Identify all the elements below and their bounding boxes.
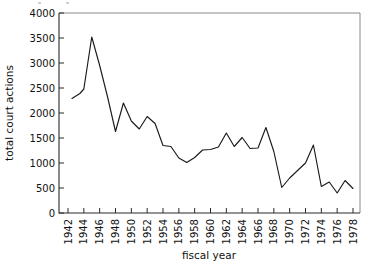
y-tick-label-0: 0: [49, 208, 55, 219]
chart-figure: 05001000150020002500300035004000 1942194…: [0, 0, 374, 264]
x-tick-label-1946: 1946: [94, 219, 105, 244]
x-tick-label-1964: 1964: [237, 219, 248, 244]
x-tick-label-1968: 1968: [268, 219, 279, 244]
x-tick-label-1966: 1966: [253, 219, 264, 244]
x-tick-label-1974: 1974: [316, 219, 327, 244]
x-axis-ticks: [68, 208, 353, 213]
x-axis-title: fiscal year: [182, 249, 237, 261]
y-tick-label-1500: 1500: [30, 133, 55, 144]
x-tick-label-1944: 1944: [78, 219, 89, 244]
y-axis-title: total court actions: [3, 65, 15, 161]
x-tick-label-1960: 1960: [205, 219, 216, 244]
y-tick-label-2000: 2000: [30, 108, 55, 119]
x-tick-label-1972: 1972: [300, 219, 311, 244]
x-axis-tick-labels: 1942194419461948195019521954195619581960…: [63, 219, 359, 244]
data-series-line: [72, 37, 353, 193]
scan-artifact: [66, 2, 69, 4]
y-axis-tick-labels: 05001000150020002500300035004000: [30, 8, 55, 219]
x-tick-label-1952: 1952: [142, 219, 153, 244]
x-tick-label-1970: 1970: [284, 219, 295, 244]
y-tick-label-3000: 3000: [30, 58, 55, 69]
x-tick-label-1950: 1950: [126, 219, 137, 244]
x-tick-label-1958: 1958: [189, 219, 200, 244]
x-tick-label-1976: 1976: [332, 219, 343, 244]
y-axis-ticks: [59, 13, 64, 213]
scan-artifact: [38, 2, 41, 4]
y-tick-label-500: 500: [36, 183, 55, 194]
x-tick-label-1948: 1948: [110, 219, 121, 244]
plot-axes: [59, 13, 360, 213]
x-tick-label-1942: 1942: [63, 219, 74, 244]
y-tick-label-1000: 1000: [30, 158, 55, 169]
y-tick-label-2500: 2500: [30, 83, 55, 94]
y-tick-label-3500: 3500: [30, 33, 55, 44]
plot-frame: [59, 13, 360, 213]
y-tick-label-4000: 4000: [30, 8, 55, 19]
x-tick-label-1978: 1978: [348, 219, 359, 244]
x-tick-label-1956: 1956: [173, 219, 184, 244]
x-tick-label-1962: 1962: [221, 219, 232, 244]
x-tick-label-1954: 1954: [158, 219, 169, 244]
